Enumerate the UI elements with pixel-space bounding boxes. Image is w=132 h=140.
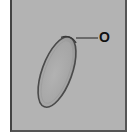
egg xyxy=(30,32,84,112)
annotation-label-o: O xyxy=(99,30,110,44)
micrograph-image xyxy=(0,0,132,140)
